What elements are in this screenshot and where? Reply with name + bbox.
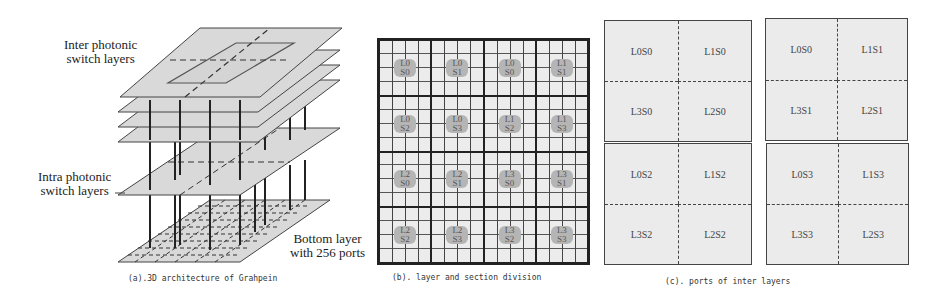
section-tag: L1S1 <box>551 59 573 77</box>
section-label: S0 <box>505 68 515 77</box>
section-tag: L3S2 <box>499 226 521 244</box>
port-cell: L2S0 <box>678 81 751 141</box>
section-label: S0 <box>400 179 410 188</box>
port-cell: L2S2 <box>678 204 751 264</box>
section-label: S1 <box>452 179 462 188</box>
section-label: S1 <box>557 68 567 77</box>
caption-c: (c). ports of inter layers <box>665 277 790 286</box>
section-label: S3 <box>452 124 462 133</box>
ports-box-s2: L0S2L1S2L3S2L2S2 <box>604 143 752 265</box>
section-cell: L1S3 <box>536 96 588 152</box>
port-cell: L2S1 <box>837 80 908 141</box>
section-tag: L0S0 <box>499 59 521 77</box>
section-cell: L2S3 <box>431 207 483 263</box>
ports-box-s1: L0S0L1S1L3S1L2S1 <box>765 18 908 141</box>
section-tag: L0S0 <box>394 59 416 77</box>
section-label: S2 <box>505 235 515 244</box>
port-cell: L3S3 <box>767 204 838 264</box>
ports-box-s3: L0S3L1S3L3S3L2S3 <box>766 143 909 265</box>
section-cell: L0S2 <box>379 96 431 152</box>
section-cell: L2S1 <box>431 152 483 208</box>
section-tag: L2S3 <box>446 226 468 244</box>
port-cell: L3S2 <box>605 204 678 264</box>
port-cell: L1S3 <box>838 144 909 204</box>
section-label: S0 <box>400 68 410 77</box>
section-cell: L3S0 <box>484 152 536 208</box>
ports-box-s0: L0S0L1S0L3S0L2S0 <box>604 20 752 142</box>
label-bottom-layer: Bottom layer with 256 ports <box>290 232 365 260</box>
section-cell: L0S3 <box>431 96 483 152</box>
section-label: S2 <box>400 124 410 133</box>
section-cell: L3S1 <box>536 152 588 208</box>
label-inter-photonic: Inter photonic switch layers <box>64 38 137 66</box>
section-label: S1 <box>452 68 462 77</box>
section-tag: L2S2 <box>394 226 416 244</box>
section-cell: L1S1 <box>536 40 588 96</box>
section-tag: L0S3 <box>446 115 468 133</box>
section-cell: L3S3 <box>536 207 588 263</box>
section-tag: L1S3 <box>551 115 573 133</box>
caption-a: (a).3D architecture of Grahpein <box>128 274 277 283</box>
section-label: S3 <box>452 235 462 244</box>
section-cell: L0S1 <box>431 40 483 96</box>
section-label: S1 <box>557 179 567 188</box>
section-tag: L2S0 <box>394 170 416 188</box>
port-cell: L1S2 <box>678 144 751 204</box>
section-cell: L2S0 <box>379 152 431 208</box>
section-cell: L3S2 <box>484 207 536 263</box>
port-cell: L1S1 <box>837 19 908 80</box>
section-label: S2 <box>505 124 515 133</box>
port-cell: L1S0 <box>678 21 751 81</box>
label-intra-photonic: Intra photonic switch layers <box>38 170 111 198</box>
section-cell: L0S0 <box>379 40 431 96</box>
port-cell: L0S3 <box>767 144 838 204</box>
section-label: S2 <box>400 235 410 244</box>
panel-a-3d-architecture: Inter photonic switch layers Intra photo… <box>0 0 360 303</box>
section-cell: L0S0 <box>484 40 536 96</box>
section-tag: L0S2 <box>394 115 416 133</box>
section-tag: L3S3 <box>551 226 573 244</box>
section-tag: L3S0 <box>499 170 521 188</box>
port-cell: L0S0 <box>605 21 678 81</box>
section-tag: L0S1 <box>446 59 468 77</box>
port-cell: L3S0 <box>605 81 678 141</box>
section-tag: L3S1 <box>551 170 573 188</box>
port-cell: L2S3 <box>838 204 909 264</box>
port-cell: L0S2 <box>605 144 678 204</box>
section-label: S3 <box>557 124 567 133</box>
section-label: S3 <box>557 235 567 244</box>
caption-b: (b). layer and section division <box>392 273 541 282</box>
port-cell: L0S0 <box>766 19 837 80</box>
section-cell: L2S2 <box>379 207 431 263</box>
section-label: S0 <box>505 179 515 188</box>
panel-b-layer-section-grid: L0S0L0S1L0S0L1S1L0S2L0S3L1S2L1S3L2S0L2S1… <box>377 38 590 265</box>
section-tag: L2S1 <box>446 170 468 188</box>
section-cell: L1S2 <box>484 96 536 152</box>
port-cell: L3S1 <box>766 80 837 141</box>
section-tag: L1S2 <box>499 115 521 133</box>
